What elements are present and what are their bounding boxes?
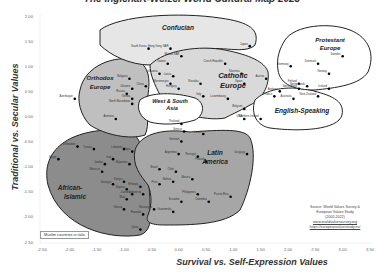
point-label: Morocco [89, 167, 100, 171]
point-label: Hong Kong SAR [148, 44, 169, 48]
point-label: Israel [194, 130, 201, 134]
point-label: China [137, 82, 145, 86]
data-point [259, 118, 262, 121]
data-point [328, 72, 331, 75]
point-label: Northern Ireland [238, 114, 259, 118]
data-point [172, 180, 175, 183]
point-label: Sweden [331, 52, 342, 56]
point-label: Lebanon [111, 145, 122, 149]
region-label-african-1: African- [57, 184, 83, 191]
x-tick-label: 3.00 [339, 247, 348, 252]
data-point [74, 98, 77, 101]
data-point [180, 123, 183, 126]
point-label: Serbia [122, 94, 131, 98]
region-label-english-speaking: English-Speaking [275, 107, 330, 115]
region-label-protestant-2: Europe [320, 45, 341, 51]
data-point [317, 62, 320, 65]
data-point [298, 88, 301, 91]
region-latin-america [134, 130, 253, 225]
point-label: Russia [116, 89, 125, 93]
point-label: Belgium [232, 104, 243, 108]
point-label: Macau SAR [164, 52, 179, 56]
data-point [180, 201, 183, 204]
data-point [158, 72, 161, 75]
region-label-wsa-2: Asia [165, 105, 178, 111]
data-point [180, 140, 183, 143]
data-point [104, 163, 107, 166]
data-point [57, 158, 60, 161]
region-label-catholic-1: Catholic [218, 71, 248, 80]
point-label: Zimbabwe [63, 142, 76, 146]
region-label-protestant-1: Protestant [315, 37, 346, 43]
data-point [317, 95, 320, 98]
point-label: Latvia [164, 72, 172, 76]
point-label: Japan [240, 42, 248, 46]
data-point [131, 103, 134, 106]
data-point [158, 183, 161, 186]
point-label: Libya [124, 147, 131, 151]
data-point [180, 55, 183, 58]
point-label: Ukraine [121, 84, 131, 88]
y-tick-label: 1.00 [25, 64, 34, 69]
point-label: Nigeria [116, 185, 125, 189]
data-point [177, 88, 180, 91]
point-label: Bolivia [163, 177, 172, 181]
data-point [112, 183, 115, 186]
data-point [224, 62, 227, 65]
point-label: Luxembourg [210, 94, 226, 98]
point-label: Ethiopia [128, 182, 139, 186]
data-point [145, 85, 148, 88]
region-label-wsa-1: West & South [152, 98, 188, 104]
data-point [279, 90, 282, 93]
source-link-evs[interactable]: https://europeanvaluesstudy.eu/ [295, 225, 375, 230]
point-label: Portugal [185, 152, 196, 156]
data-point [128, 77, 131, 80]
point-label: Egypt [49, 155, 56, 159]
point-label: Puerto Rico [214, 192, 229, 196]
data-point [199, 83, 202, 86]
point-label: Tunisia [83, 145, 92, 149]
point-label: Taiwan [157, 59, 166, 63]
region-orthodox-europe [79, 59, 149, 137]
data-point [142, 193, 145, 196]
data-point [207, 201, 210, 204]
point-label: Australia [281, 94, 292, 98]
y-tick-label: 0.00 [25, 114, 34, 119]
x-tick-label: 1.00 [229, 247, 238, 252]
point-label: Armenia [103, 114, 114, 118]
point-label: Colombia [195, 197, 207, 201]
point-label: Brazil [151, 165, 158, 169]
point-label: Montenegro [154, 79, 169, 83]
point-label: Lithuania [146, 69, 158, 73]
data-point [123, 180, 126, 183]
point-label: Indonesia [129, 190, 142, 194]
data-point [248, 45, 251, 48]
data-point [76, 145, 79, 148]
x-axis-title: Survival vs. Self-Expression Values [120, 257, 384, 267]
point-label: Vietnam [169, 137, 180, 141]
point-label: Kenya [114, 177, 122, 181]
point-label: South Korea [131, 44, 147, 48]
point-label: Ghana [114, 205, 123, 209]
point-label: Peru [152, 180, 158, 184]
point-label: Rwanda [131, 210, 142, 214]
region-label-orthodox-1: Orthodox [87, 75, 115, 81]
data-point [197, 193, 200, 196]
x-tick-label: -1.00 [119, 247, 129, 252]
data-point [175, 170, 178, 173]
y-tick-label: -2.50 [23, 240, 33, 245]
x-tick-label: 0.50 [202, 247, 211, 252]
data-point [177, 153, 180, 156]
data-point [112, 158, 115, 161]
point-label: Myanmar [116, 160, 128, 164]
data-point [289, 65, 292, 68]
y-tick-label: -0.50 [23, 139, 33, 144]
data-point [166, 62, 169, 65]
x-tick-label: 2.50 [311, 247, 320, 252]
point-label: Iraq [106, 155, 111, 159]
point-label: Uruguay [234, 150, 245, 154]
data-point [142, 213, 145, 216]
data-point [169, 47, 172, 50]
data-point [328, 88, 331, 91]
x-tick-label: -2.50 [37, 247, 47, 252]
